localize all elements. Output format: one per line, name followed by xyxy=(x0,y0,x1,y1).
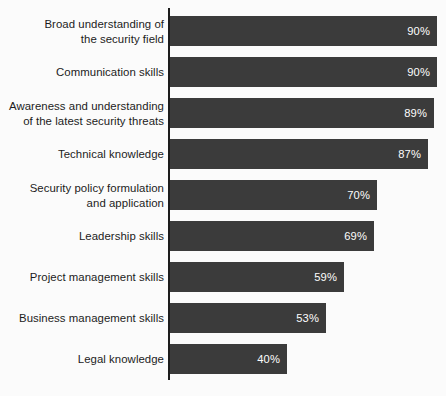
bar[interactable]: 40% xyxy=(170,344,287,374)
bar-row: Broad understanding of the security fiel… xyxy=(0,16,446,46)
bar-track: 40% xyxy=(170,344,446,374)
bar-row: Security policy formulation and applicat… xyxy=(0,180,446,210)
bar[interactable]: 90% xyxy=(170,57,437,87)
bar[interactable]: 90% xyxy=(170,16,437,46)
bar-category-label: Communication skills xyxy=(4,65,164,80)
bar-value-label: 90% xyxy=(407,66,437,78)
bar-category-label: Technical knowledge xyxy=(4,147,164,162)
bar-value-label: 89% xyxy=(404,107,434,119)
bar-track: 89% xyxy=(170,98,446,128)
bar[interactable]: 89% xyxy=(170,98,434,128)
bar-category-label: Business management skills xyxy=(4,311,164,326)
bar-category-label: Project management skills xyxy=(4,270,164,285)
bar-track: 59% xyxy=(170,262,446,292)
bar-row: Technical knowledge 87% xyxy=(0,139,446,169)
bar-row: Communication skills 90% xyxy=(0,57,446,87)
bar-track: 70% xyxy=(170,180,446,210)
bar[interactable]: 87% xyxy=(170,139,428,169)
horizontal-bar-chart: Broad understanding of the security fiel… xyxy=(0,0,446,396)
bar-category-label: Leadership skills xyxy=(4,229,164,244)
bar-value-label: 90% xyxy=(407,25,437,37)
bar-category-label: Legal knowledge xyxy=(4,352,164,367)
bar[interactable]: 70% xyxy=(170,180,377,210)
bar-value-label: 53% xyxy=(296,312,326,324)
bar[interactable]: 53% xyxy=(170,303,326,333)
bar-row: Legal knowledge 40% xyxy=(0,344,446,374)
bar-row: Leadership skills 69% xyxy=(0,221,446,251)
bar-track: 69% xyxy=(170,221,446,251)
bar-value-label: 59% xyxy=(314,271,344,283)
bar-row: Business management skills 53% xyxy=(0,303,446,333)
bar-track: 90% xyxy=(170,16,446,46)
bar-value-label: 40% xyxy=(257,353,287,365)
bar[interactable]: 69% xyxy=(170,221,374,251)
bar-category-label: Awareness and understanding of the lates… xyxy=(4,99,164,128)
bar-track: 90% xyxy=(170,57,446,87)
bar-value-label: 70% xyxy=(347,189,377,201)
bar-category-label: Security policy formulation and applicat… xyxy=(4,181,164,210)
bar-row: Awareness and understanding of the lates… xyxy=(0,98,446,128)
bar-value-label: 69% xyxy=(344,230,374,242)
bar[interactable]: 59% xyxy=(170,262,344,292)
bar-value-label: 87% xyxy=(398,148,428,160)
bar-track: 53% xyxy=(170,303,446,333)
bar-category-label: Broad understanding of the security fiel… xyxy=(4,17,164,46)
bar-row: Project management skills 59% xyxy=(0,262,446,292)
bar-track: 87% xyxy=(170,139,446,169)
